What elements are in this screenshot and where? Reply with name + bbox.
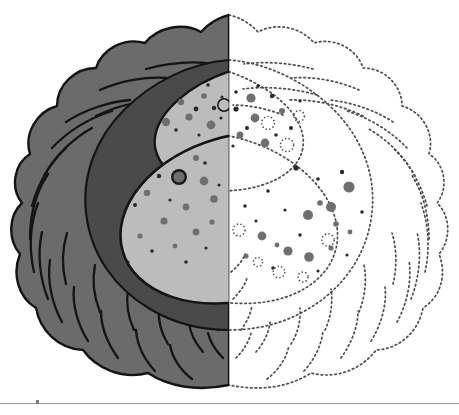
granule-open-vesicle — [273, 266, 285, 278]
granule-speck — [217, 183, 220, 186]
granule-solid — [193, 229, 200, 236]
granule-solid — [343, 181, 354, 192]
granule-solid — [207, 121, 216, 130]
bisected-ovoid-diagram — [0, 0, 459, 415]
granule-speck — [298, 233, 302, 237]
granule-ring — [172, 170, 186, 184]
granule-open-vesicle — [280, 138, 293, 151]
granule-speck — [289, 126, 293, 130]
granule-speck — [197, 133, 200, 136]
granule-speck — [270, 94, 274, 98]
granule-speck — [168, 198, 171, 201]
granule-open-vesicle — [322, 234, 334, 246]
granule-open-vesicle — [298, 272, 308, 282]
granule-solid — [261, 139, 270, 148]
outer-coat-ghost — [229, 15, 448, 388]
granule-solid — [173, 244, 178, 249]
granule-open-vesicle — [233, 224, 245, 236]
granule-speck — [212, 106, 216, 110]
granule-speck — [174, 128, 178, 132]
granule-solid — [162, 118, 170, 126]
granule-solid — [279, 108, 285, 114]
granule-solid — [251, 114, 260, 123]
granule-solid — [246, 93, 255, 102]
granule-solid — [258, 232, 267, 241]
granule-solid — [326, 202, 336, 212]
granule-speck — [245, 126, 249, 130]
granule-solid — [201, 93, 207, 99]
granule-speck — [194, 107, 199, 112]
granule-speck — [150, 249, 154, 253]
granule-speck — [283, 208, 286, 211]
granule-solid — [209, 219, 214, 224]
granule-speck — [219, 116, 222, 119]
granule-solid — [333, 221, 339, 227]
figure-root — [0, 0, 459, 415]
coat-striations-ghost — [231, 63, 429, 379]
granule-speck — [340, 170, 344, 174]
granule-solid — [243, 253, 248, 258]
granule-solid — [317, 200, 323, 206]
granule-speck — [133, 203, 137, 207]
granule-open-vesicle — [294, 111, 305, 122]
granule-speck — [274, 133, 278, 137]
baseline-rule — [0, 403, 459, 404]
right-granules — [231, 84, 363, 282]
granule-solid — [193, 155, 199, 161]
granule-speck — [234, 90, 238, 94]
granule-solid — [137, 233, 142, 238]
granule-open-vesicle — [253, 257, 262, 266]
granule-solid — [303, 210, 313, 220]
granule-speck — [316, 177, 320, 181]
granule-speck — [243, 204, 247, 208]
granule-speck — [206, 83, 210, 87]
granule-speck — [266, 189, 270, 193]
granule-speck — [360, 210, 364, 214]
granule-speck — [345, 253, 348, 256]
granule-solid — [183, 204, 190, 211]
granule-speck — [254, 219, 257, 222]
granule-speck — [231, 144, 234, 147]
granule-solid — [178, 99, 184, 105]
granule-speck — [316, 269, 319, 272]
granule-speck — [256, 84, 260, 88]
baseline-tick — [36, 400, 39, 404]
granule-solid — [144, 190, 150, 196]
granule-speck — [233, 106, 238, 111]
granule-solid — [275, 243, 280, 248]
granule-solid — [283, 246, 292, 255]
granule-solid — [237, 132, 244, 139]
left-filled-half — [11, 15, 387, 388]
granule-open-vesicle — [262, 117, 275, 130]
granule-solid — [348, 230, 353, 235]
granule-speck — [184, 260, 188, 264]
granule-speck — [298, 99, 301, 102]
granule-speck — [157, 174, 161, 178]
granule-speck — [204, 246, 207, 249]
granule-speck — [293, 165, 298, 170]
granule-solid — [200, 177, 209, 186]
granule-speck — [203, 161, 207, 165]
granule-solid — [304, 252, 314, 262]
granule-solid — [185, 113, 192, 120]
granule-solid — [160, 217, 167, 224]
granule-solid — [210, 195, 218, 203]
